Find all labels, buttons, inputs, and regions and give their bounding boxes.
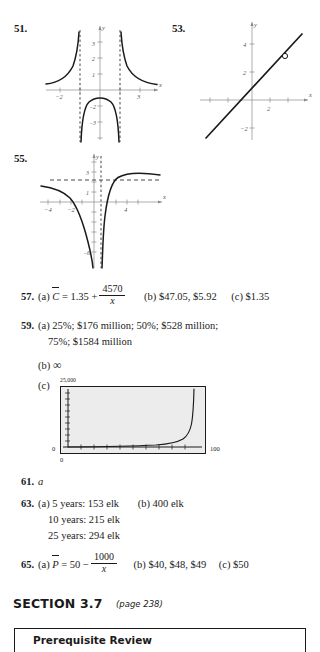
answer-63-part-b-label: (b)	[138, 498, 150, 509]
answer-59-part-c-label-row: (c)	[38, 378, 50, 393]
svg-text:y: y	[95, 153, 99, 160]
calc-y-min-label: 0	[52, 445, 55, 452]
answer-57-equation: = 1.35 +	[62, 291, 97, 302]
answer-65-part-c-value: $50	[233, 559, 249, 570]
svg-text:−6: −6	[83, 250, 90, 256]
answer-65-part-c-label: (c)	[219, 559, 231, 570]
svg-text:−2: −2	[55, 93, 63, 100]
graph-53: 4 2 −2 2 x y	[196, 16, 314, 144]
calc-x-min-label: 0	[60, 456, 63, 463]
svg-text:3: 3	[91, 41, 95, 47]
problem-label-51: 51.	[14, 22, 27, 34]
answer-63-part-a-line3: 25 years: 294 elk	[48, 530, 120, 541]
answer-57-part-c-value: $1.35	[246, 291, 270, 302]
answer-57: 57.(a) C = 1.35 +4570x (b) $47.05, $5.92…	[12, 286, 269, 308]
answer-63-part-a-line2: 10 years: 215 elk	[48, 514, 120, 525]
answer-57-numerator: 4570	[99, 284, 125, 295]
answer-65-numerator: 1000	[91, 552, 117, 563]
svg-text:1: 1	[86, 190, 89, 196]
calculator-graph-59c: 25,000	[58, 378, 204, 446]
section-heading: SECTION 3.7	[13, 596, 103, 611]
calc-x-max-label: 100	[210, 445, 220, 452]
graph-51: −2 3 3 2 1 −2 −3 x y	[40, 16, 165, 144]
answer-59-part-b-label: (b)	[38, 360, 50, 371]
answer-59-part-c-label: (c)	[38, 380, 50, 391]
prerequisite-review-box: Prerequisite Review	[14, 628, 306, 652]
calc-screen	[60, 386, 206, 454]
answer-63-number: 63.	[12, 496, 34, 511]
answer-65-avg-profit-symbol: P	[52, 557, 58, 572]
answer-59-line-2: 75%; $1584 million	[48, 334, 132, 349]
answer-59-line-1: 59.(a) 25%; $176 million; 50%; $528 mill…	[12, 318, 218, 333]
answer-65-part-a-label: (a)	[38, 559, 50, 570]
svg-text:2: 2	[267, 105, 271, 112]
answer-57-part-c-label: (c)	[231, 291, 243, 302]
answer-59-number: 59.	[12, 318, 34, 333]
answer-57-number: 57.	[12, 289, 34, 304]
answer-57-denominator: x	[99, 295, 125, 307]
answer-57-avg-cost-symbol: C	[52, 289, 59, 304]
svg-text:1: 1	[92, 72, 95, 78]
answer-65-equation: = 50 −	[61, 559, 89, 570]
answer-61: 61.a	[12, 474, 43, 489]
answer-57-fraction: 4570x	[99, 284, 125, 306]
svg-text:y: y	[101, 24, 105, 31]
answer-65-part-b-value: $40, $48, $49	[148, 559, 206, 570]
answer-59-part-a-label: (a)	[38, 320, 50, 331]
answer-65-denominator: x	[91, 563, 117, 575]
answer-61-value: a	[38, 476, 43, 487]
answer-57-part-b-label: (b)	[144, 291, 156, 302]
answer-63-line-2: 10 years: 215 elk	[48, 512, 120, 527]
svg-text:−2: −2	[67, 206, 75, 213]
svg-text:−4: −4	[44, 206, 52, 213]
svg-text:3: 3	[85, 170, 89, 176]
answer-65-part-b-label: (b)	[134, 559, 146, 570]
prerequisite-review-title: Prerequisite Review	[33, 634, 152, 646]
answer-59-part-b-value: ∞	[53, 358, 62, 372]
svg-text:x: x	[308, 91, 312, 98]
svg-text:x: x	[162, 193, 166, 200]
svg-text:−2: −2	[89, 104, 96, 110]
answer-63-part-b-value: 400 elk	[153, 498, 184, 509]
svg-text:4: 4	[243, 41, 247, 48]
svg-text:−3: −3	[89, 120, 96, 126]
svg-text:y: y	[253, 21, 257, 28]
answer-65-number: 65.	[12, 557, 34, 572]
section-page-reference: (page 238)	[116, 599, 163, 609]
svg-text:3: 3	[136, 93, 141, 100]
svg-text:−2: −2	[240, 125, 248, 132]
answer-59-part-b: (b) ∞	[38, 358, 61, 373]
answer-63-line-1: 63.(a) 5 years: 153 elk (b) 400 elk	[12, 496, 184, 511]
problem-label-55: 55.	[14, 152, 27, 164]
answer-57-part-b-value: $47.05, $5.92	[159, 291, 217, 302]
answer-65: 65.(a) P = 50 −1000x (b) $40, $48, $49 (…	[12, 554, 249, 576]
graph-55: −4 −2 4 3 1 −6 x y	[36, 150, 168, 270]
svg-text:2: 2	[92, 56, 95, 62]
answer-61-number: 61.	[12, 474, 34, 489]
svg-text:x: x	[158, 81, 162, 88]
answer-59-part-a-line1: 25%; $176 million; 50%; $528 million;	[52, 320, 218, 331]
answer-59-part-a-line2: 75%; $1584 million	[48, 336, 132, 347]
answer-65-fraction: 1000x	[91, 552, 117, 574]
problem-label-53: 53.	[172, 22, 185, 34]
calc-y-max-label: 25,000	[60, 377, 76, 383]
svg-text:4: 4	[124, 206, 128, 213]
answer-63-part-a-line1: 5 years: 153 elk	[52, 498, 119, 509]
answer-57-part-a-label: (a)	[38, 291, 50, 302]
svg-text:2: 2	[243, 69, 247, 76]
answer-63-line-3: 25 years: 294 elk	[48, 528, 120, 543]
answer-63-part-a-label: (a)	[38, 498, 50, 509]
